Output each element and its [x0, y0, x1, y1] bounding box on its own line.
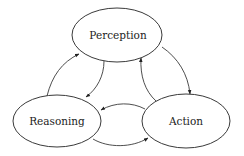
cycle-diagram: Perception Reasoning Action [0, 0, 244, 156]
node-perception: Perception [72, 8, 162, 62]
edge-perception-to-action [162, 47, 190, 94]
edge-action-to-reasoning [101, 104, 145, 110]
node-action-label: Action [168, 115, 203, 127]
edge-action-to-perception [141, 58, 156, 101]
edge-perception-to-reasoning [86, 61, 104, 97]
node-reasoning-label: Reasoning [29, 115, 85, 127]
node-action: Action [142, 94, 230, 148]
node-reasoning: Reasoning [13, 95, 101, 147]
edge-reasoning-to-perception [47, 54, 79, 96]
node-perception-label: Perception [89, 29, 147, 41]
edge-reasoning-to-action [93, 138, 148, 146]
